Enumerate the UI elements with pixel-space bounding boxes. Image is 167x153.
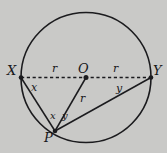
point-label-o: O: [78, 62, 89, 75]
circle-geometry-figure: X O Y P r r r x y x y: [0, 0, 167, 153]
point-dot-p: [53, 129, 58, 134]
angle-label-x: x: [50, 111, 56, 121]
point-label-p: P: [44, 131, 53, 144]
point-label-y: Y: [153, 64, 162, 77]
segment-label-chord-xp: x: [31, 82, 37, 93]
segment-label-radius-right: r: [113, 63, 118, 74]
segment-label-radius-op: r: [80, 93, 85, 104]
point-dot-x: [19, 75, 24, 80]
diagram-canvas: [0, 0, 167, 153]
angle-label-y: y: [62, 111, 68, 121]
point-label-x: X: [7, 64, 16, 77]
chord-p-to-y: [55, 78, 151, 132]
segment-label-chord-py: y: [116, 83, 122, 94]
segment-label-radius-left: r: [52, 63, 57, 74]
